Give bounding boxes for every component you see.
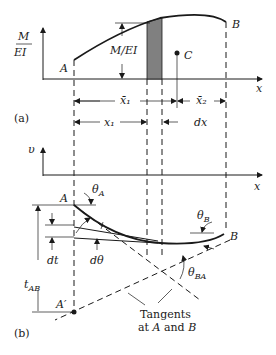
tangents-label-line2: at A and B (138, 321, 196, 334)
dim-dx: dx (194, 116, 208, 129)
point-b-label: B (231, 18, 240, 31)
dt-label: dt (47, 254, 59, 267)
part-b: υ x tAB dt dθ θA (14, 143, 262, 340)
centroid-label: C (184, 49, 193, 62)
point-a-label: A (59, 62, 68, 75)
theta-b-label: θB (197, 209, 210, 224)
ordinate-label: M/EI (109, 44, 138, 57)
theta-ba-label: θBA (188, 266, 207, 281)
tangents-label-line1: Tangents (140, 308, 191, 321)
t-ab-label: tAB (24, 278, 40, 293)
x-axis-b-label: x (254, 180, 261, 193)
point-b-b-label: B (229, 230, 238, 243)
x-axis-a-label: x (256, 82, 263, 95)
dim-x1-bar: x̄₁ (120, 94, 131, 107)
ei-label: EI (13, 46, 27, 59)
part-a-label: (a) (14, 112, 29, 125)
part-b-label: (b) (14, 327, 30, 340)
part-a: M/EI C M EI A B x (a) x̄₁ x̄₂ x₁ dx (13, 15, 263, 129)
moment-area-diagram: M/EI C M EI A B x (a) x̄₁ x̄₂ x₁ dx (0, 0, 276, 355)
dim-x1: x₁ (104, 116, 115, 129)
v-axis-label: υ (28, 143, 35, 156)
shaded-strip (147, 18, 162, 79)
point-a-b-label: A (59, 192, 68, 205)
point-a-prime-label: A′ (55, 298, 67, 311)
m-label: M (17, 30, 30, 43)
theta-a-label: θA (92, 183, 105, 198)
dtheta-label: dθ (90, 254, 104, 267)
dim-x2-bar: x̄₂ (196, 94, 207, 107)
